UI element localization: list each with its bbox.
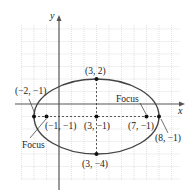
right-vertex-leader bbox=[161, 119, 168, 133]
y-axis-label: y bbox=[49, 10, 55, 21]
right-focus-point bbox=[145, 115, 149, 119]
left-vertex-point bbox=[32, 115, 36, 119]
ellipse-diagram: x y (3, 2) (3, −4) (3, −1) (−2, −1) (8, … bbox=[0, 0, 193, 194]
right-vertex-label: (8, −1) bbox=[155, 133, 181, 144]
left-focus-label: (−1, −1) bbox=[45, 121, 76, 132]
right-vertex-point bbox=[157, 115, 161, 119]
bottom-vertex-label: (3, −4) bbox=[82, 159, 108, 170]
left-focus-point bbox=[45, 115, 49, 119]
right-focus-label: (7, −1) bbox=[128, 121, 154, 132]
top-vertex-label: (3, 2) bbox=[85, 66, 106, 77]
bottom-vertex-point bbox=[95, 152, 99, 156]
x-axis-label: x bbox=[177, 105, 183, 116]
left-focus-leader bbox=[30, 119, 46, 138]
y-axis-arrow-icon bbox=[57, 15, 62, 21]
right-focus-leader bbox=[140, 103, 146, 114]
center-point bbox=[95, 115, 99, 119]
center-label: (3, −1) bbox=[84, 121, 110, 132]
top-vertex-point bbox=[95, 77, 99, 81]
left-vertex-label: (−2, −1) bbox=[15, 86, 46, 97]
focus-left-annotation: Focus bbox=[22, 140, 45, 150]
grid bbox=[22, 25, 181, 181]
focus-right-annotation: Focus bbox=[116, 94, 139, 104]
diagram-canvas: x y (3, 2) (3, −4) (3, −1) (−2, −1) (8, … bbox=[0, 0, 193, 194]
